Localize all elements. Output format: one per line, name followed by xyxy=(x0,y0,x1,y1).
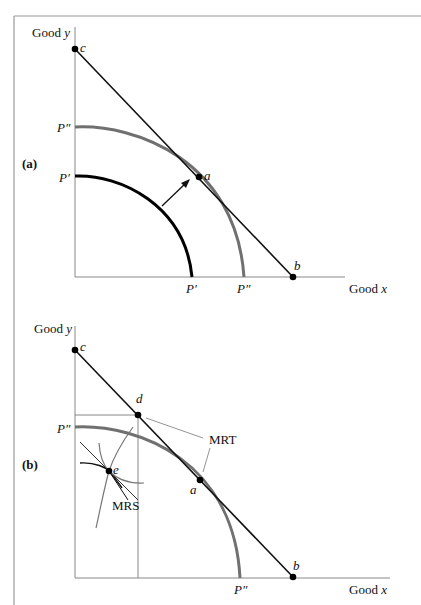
point-a-label: a xyxy=(190,482,197,497)
panel-label: (a) xyxy=(22,156,37,171)
point-e-label: e xyxy=(113,462,119,477)
p-double-prime-x-label: P″ xyxy=(233,582,248,597)
point-a xyxy=(196,174,203,181)
point-a-label: a xyxy=(204,168,211,183)
y-axis-label: Good y xyxy=(34,321,72,336)
point-b-label: b xyxy=(293,558,300,573)
p-prime-x-label: P′ xyxy=(185,281,197,296)
x-axis-label: Good x xyxy=(349,582,387,597)
p-double-prime-x-label: P″ xyxy=(236,281,251,296)
point-b xyxy=(290,574,297,581)
panel-label: (b) xyxy=(22,457,38,472)
price-line xyxy=(75,350,293,577)
mrt-leader-a xyxy=(203,448,210,472)
y-axis-label: Good y xyxy=(32,25,70,40)
ppf-diagram: Good y Good x (a) c a b P″ P′ P′ P″ xyxy=(0,0,421,605)
p-double-prime-y-label: P″ xyxy=(56,421,71,436)
point-d-label: d xyxy=(136,391,143,406)
point-c xyxy=(72,46,79,53)
mrt-label: MRT xyxy=(209,432,236,447)
mrs-label: MRS xyxy=(112,498,139,513)
point-c-label: c xyxy=(80,339,86,354)
panel-b: Good y Good x (b) c d a b e P″ P″ MRT MR… xyxy=(22,321,390,597)
panel-a: Good y Good x (a) c a b P″ P′ P′ P″ xyxy=(22,25,387,296)
point-e xyxy=(106,468,113,475)
shift-arrow xyxy=(162,179,190,206)
p-prime-y-label: P′ xyxy=(58,170,70,185)
mrt-leader-d xyxy=(146,418,203,438)
p-double-prime-y-label: P″ xyxy=(56,120,71,135)
point-a xyxy=(197,477,204,484)
ppf-inner-curve xyxy=(75,176,192,277)
point-c-label: c xyxy=(80,40,86,55)
ppf-outer-curve xyxy=(75,127,244,277)
point-d xyxy=(135,412,142,419)
point-b xyxy=(290,274,297,281)
point-c xyxy=(72,347,79,354)
point-b-label: b xyxy=(294,258,301,273)
x-axis-label: Good x xyxy=(349,281,387,296)
